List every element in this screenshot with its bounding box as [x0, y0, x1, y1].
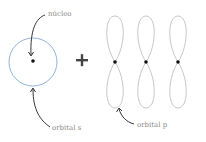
p-orbital-2-nucleus-dot [144, 60, 148, 64]
p-orbital-1-nucleus-dot [113, 60, 117, 64]
orbital-p-label: orbital p [137, 121, 168, 129]
p-orbital-3-nucleus-dot [176, 60, 180, 64]
nucleus-label: núcleo [48, 10, 72, 18]
p-orbital-1 [107, 16, 124, 108]
nucleus-dot [31, 59, 35, 63]
nucleus-arrow [31, 15, 45, 55]
p-orbital-3 [170, 16, 187, 108]
p-orbital-2 [138, 16, 155, 108]
orbital-s-label: orbital s [52, 124, 82, 132]
plus-icon [76, 54, 88, 66]
s-orbital [9, 38, 57, 86]
orbital-diagram: núcleo orbital s orbital p [0, 0, 206, 142]
orbital-s-arrow [33, 89, 50, 127]
orbital-p-arrow [119, 109, 134, 124]
